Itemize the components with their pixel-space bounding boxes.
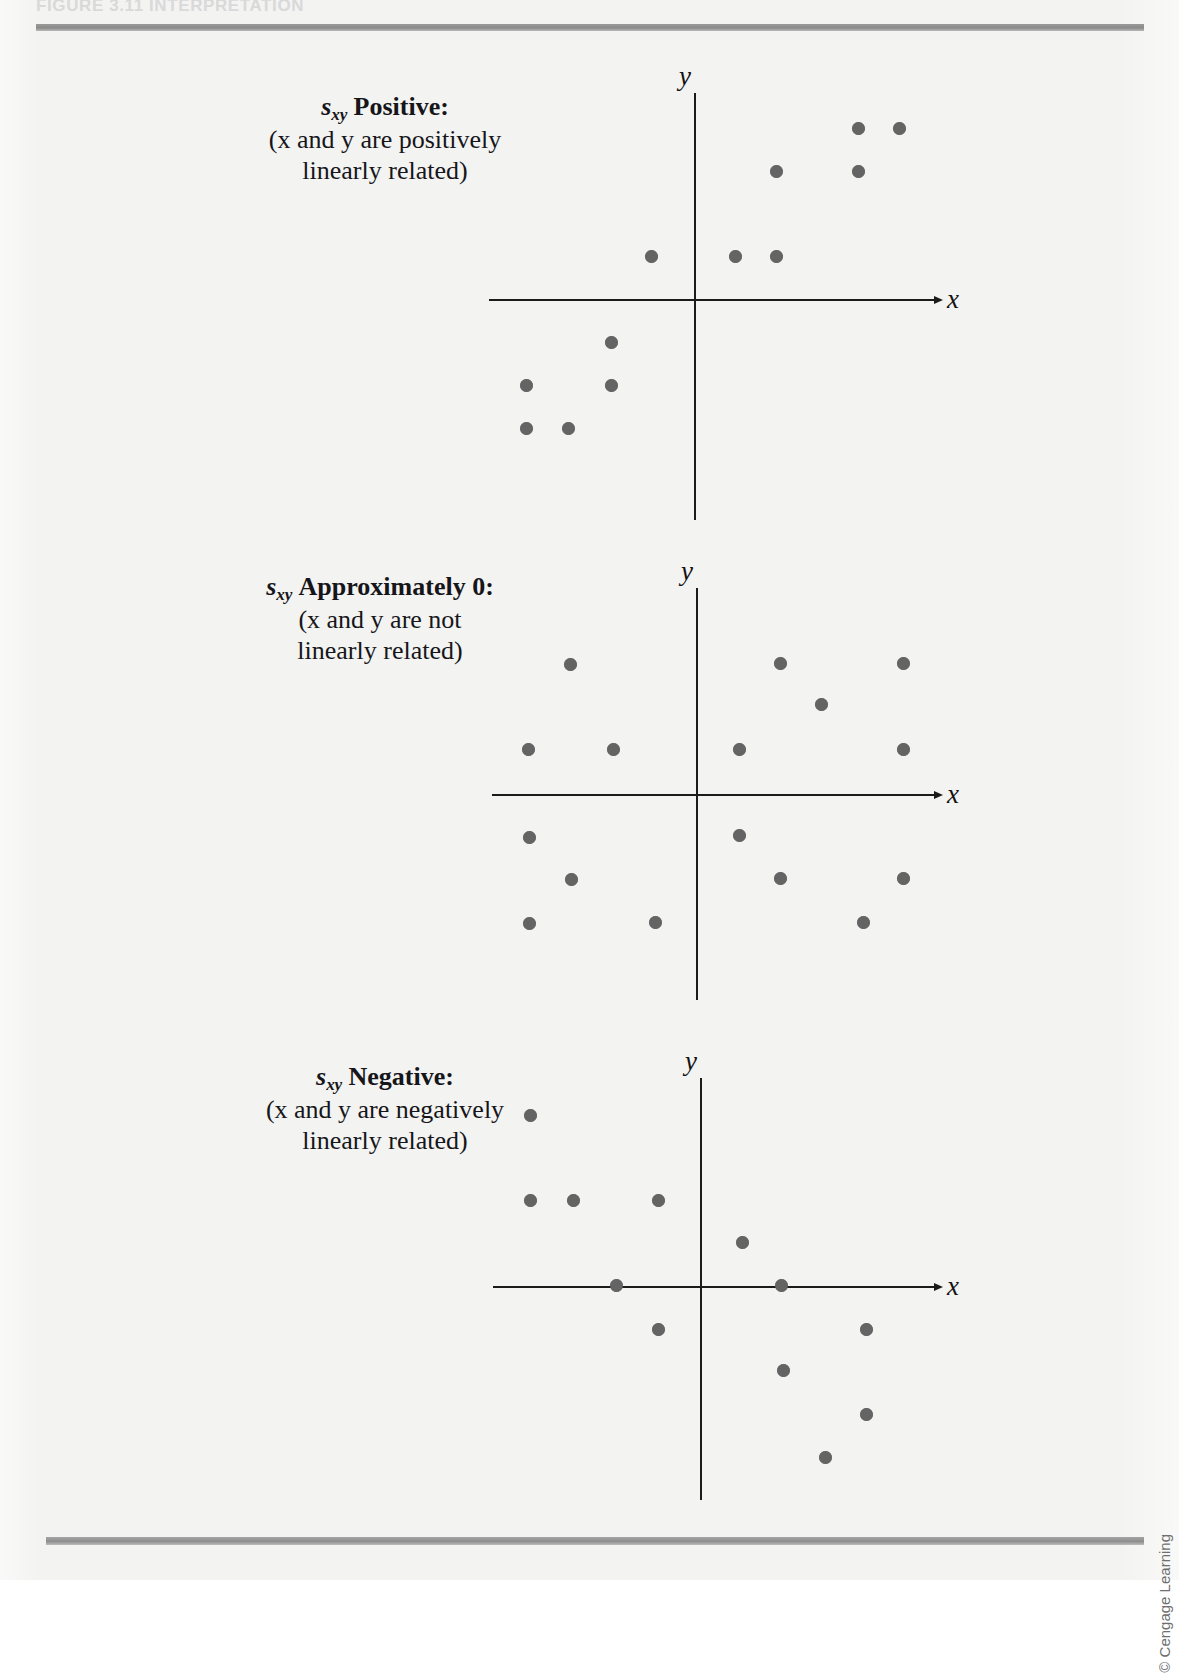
panel-positive-label: sxy Positive: (x and y are positively li… — [195, 92, 575, 186]
covariance-subscript: xy — [276, 585, 292, 604]
panel-negative-label-text: Negative: — [349, 1062, 454, 1091]
x-axis-arrow-negative — [934, 1283, 943, 1291]
x-axis-label-positive: x — [947, 284, 959, 315]
data-point — [852, 165, 865, 178]
x-axis-arrow-approximately-zero — [934, 791, 943, 799]
data-point — [652, 1323, 665, 1336]
x-axis-line-negative — [493, 1286, 937, 1288]
y-axis-line-approximately-zero — [696, 588, 698, 1000]
covariance-symbol: s — [321, 92, 331, 121]
y-axis-label-positive: y — [679, 61, 691, 92]
panel-approximately-zero-label-text: Approximately 0: — [299, 572, 494, 601]
panel-negative-label: sxy Negative: (x and y are negatively li… — [195, 1062, 575, 1156]
data-point — [893, 122, 906, 135]
data-point — [605, 379, 618, 392]
panel-positive-label-line3: linearly related) — [195, 156, 575, 187]
data-point — [522, 743, 535, 756]
data-point — [819, 1451, 832, 1464]
data-point — [649, 916, 662, 929]
data-point — [897, 872, 910, 885]
data-point — [897, 743, 910, 756]
x-axis-line-positive — [489, 299, 937, 301]
covariance-symbol: s — [266, 572, 276, 601]
data-point — [562, 422, 575, 435]
figure-caption: FIGURE 3.11 INTERPRETATION — [36, 0, 304, 16]
data-point — [610, 1279, 623, 1292]
data-point — [523, 917, 536, 930]
bottom-rule — [46, 1537, 1144, 1545]
data-point — [777, 1364, 790, 1377]
panel-negative-label-line3: linearly related) — [195, 1126, 575, 1157]
covariance-subscript: xy — [326, 1075, 342, 1094]
data-point — [774, 657, 787, 670]
y-axis-line-positive — [694, 93, 696, 520]
x-axis-line-approximately-zero — [492, 794, 937, 796]
data-point — [774, 872, 787, 885]
data-point — [652, 1194, 665, 1207]
data-point — [729, 250, 742, 263]
data-point — [857, 916, 870, 929]
data-point — [775, 1279, 788, 1292]
y-axis-line-negative — [700, 1078, 702, 1500]
data-point — [565, 873, 578, 886]
data-point — [852, 122, 865, 135]
panel-positive-label-line1: sxy Positive: — [195, 92, 575, 125]
data-point — [567, 1194, 580, 1207]
data-point — [524, 1109, 537, 1122]
data-point — [860, 1408, 873, 1421]
data-point — [736, 1236, 749, 1249]
panel-approximately-zero-label-line2: (x and y are not — [180, 605, 580, 636]
data-point — [897, 657, 910, 670]
data-point — [523, 831, 536, 844]
data-point — [770, 250, 783, 263]
x-axis-arrow-positive — [934, 296, 943, 304]
x-axis-label-negative: x — [947, 1271, 959, 1302]
data-point — [520, 379, 533, 392]
data-point — [524, 1194, 537, 1207]
data-point — [520, 422, 533, 435]
data-point — [607, 743, 620, 756]
panel-approximately-zero-label: sxy Approximately 0: (x and y are not li… — [180, 572, 580, 666]
panel-positive-label-text: Positive: — [354, 92, 449, 121]
panel-negative-label-line1: sxy Negative: — [195, 1062, 575, 1095]
panel-approximately-zero-label-line3: linearly related) — [180, 636, 580, 667]
data-point — [645, 250, 658, 263]
panel-approximately-zero-label-line1: sxy Approximately 0: — [180, 572, 580, 605]
data-point — [770, 165, 783, 178]
covariance-symbol: s — [316, 1062, 326, 1091]
data-point — [564, 658, 577, 671]
panel-positive-label-line2: (x and y are positively — [195, 125, 575, 156]
y-axis-label-negative: y — [685, 1046, 697, 1077]
data-point — [733, 743, 746, 756]
data-point — [815, 698, 828, 711]
x-axis-label-approximately-zero: x — [947, 779, 959, 810]
data-point — [605, 336, 618, 349]
covariance-subscript: xy — [331, 105, 347, 124]
top-rule — [36, 24, 1144, 31]
panel-negative-label-line2: (x and y are negatively — [195, 1095, 575, 1126]
data-point — [860, 1323, 873, 1336]
data-point — [733, 829, 746, 842]
y-axis-label-approximately-zero: y — [681, 556, 693, 587]
copyright-notice: © Cengage Learning — [1156, 1534, 1173, 1673]
